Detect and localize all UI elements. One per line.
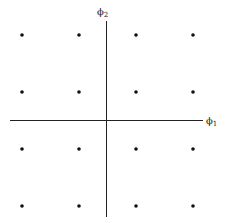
constellation-point bbox=[134, 147, 138, 151]
constellation-point bbox=[20, 204, 24, 208]
constellation-point bbox=[77, 90, 81, 94]
phi1-axis-label: ϕ1 bbox=[206, 115, 217, 128]
constellation-point bbox=[134, 204, 138, 208]
constellation-point bbox=[191, 147, 195, 151]
constellation-point bbox=[134, 90, 138, 94]
constellation-point bbox=[20, 33, 24, 37]
constellation-point bbox=[77, 204, 81, 208]
constellation-point bbox=[134, 33, 138, 37]
constellation-point bbox=[20, 90, 24, 94]
phi2-axis-label: ϕ2 bbox=[97, 6, 108, 19]
constellation-point bbox=[191, 33, 195, 37]
constellation-point bbox=[191, 90, 195, 94]
constellation-point bbox=[77, 33, 81, 37]
constellation-diagram: ϕ2 ϕ1 bbox=[0, 0, 227, 223]
constellation-point bbox=[20, 147, 24, 151]
constellation-point bbox=[191, 204, 195, 208]
constellation-point bbox=[77, 147, 81, 151]
